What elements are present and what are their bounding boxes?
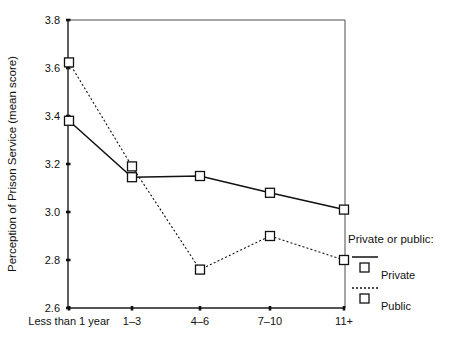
chart-legend: Private or public: Private Public [348, 233, 434, 312]
legend-label-private[interactable]: Private [381, 269, 415, 281]
plot-frame [68, 20, 345, 308]
x-tick-label: Less than 1 year [28, 315, 110, 327]
legend-swatch-private-marker [360, 263, 369, 272]
y-tick-label: 3.0 [45, 206, 60, 218]
legend-label-public[interactable]: Public [381, 300, 411, 312]
series-line-public [69, 62, 344, 269]
data-point-public [128, 162, 137, 171]
data-point-private [266, 188, 275, 197]
data-point-public [196, 265, 205, 274]
y-tick-label: 3.4 [45, 110, 60, 122]
y-tick-label: 3.8 [45, 14, 60, 26]
series-markers-private [65, 116, 349, 214]
line-chart: 3.8 3.6 3.4 3.2 3.0 2.8 2.6 Less than 1 … [0, 0, 453, 348]
data-point-public [65, 58, 74, 67]
y-axis-title: Perception of Prison Service (mean score… [6, 56, 18, 272]
legend-swatch-public-marker [360, 294, 369, 303]
x-tick-label: 1–3 [123, 315, 141, 327]
legend-title: Private or public: [348, 233, 434, 245]
data-point-private [128, 173, 137, 182]
y-tick-label: 2.8 [45, 254, 60, 266]
data-point-public [266, 232, 275, 241]
x-tick-label: 7–10 [258, 315, 282, 327]
data-point-private [65, 116, 74, 125]
x-axis-tick-labels: Less than 1 year 1–3 4–6 7–10 11+ [28, 315, 353, 327]
x-tick-label: 4–6 [191, 315, 209, 327]
series-markers-public [65, 58, 349, 274]
chart-figure: 3.8 3.6 3.4 3.2 3.0 2.8 2.6 Less than 1 … [0, 0, 453, 348]
y-tick-label: 2.6 [45, 302, 60, 314]
y-tick-label: 3.6 [45, 62, 60, 74]
y-tick-label: 3.2 [45, 158, 60, 170]
data-point-private [196, 172, 205, 181]
y-axis-tick-labels: 3.8 3.6 3.4 3.2 3.0 2.8 2.6 [45, 14, 60, 314]
data-point-private [340, 205, 349, 214]
x-tick-label: 11+ [335, 315, 353, 327]
data-point-public [340, 256, 349, 265]
series-line-private-main [69, 121, 344, 210]
